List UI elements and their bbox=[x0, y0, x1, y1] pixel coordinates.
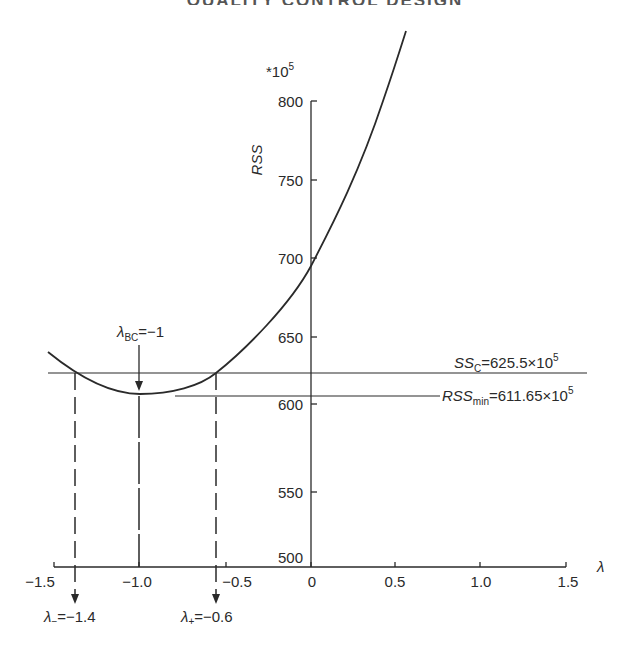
x-tick-label: 0 bbox=[308, 573, 316, 590]
x-axis bbox=[54, 562, 566, 567]
x-tick-labels: −1.5 −1.0 −0.5 0 0.5 1.0 1.5 bbox=[25, 573, 578, 590]
y-tick-label: 750 bbox=[278, 172, 303, 189]
x-tick-label: 1.5 bbox=[558, 573, 579, 590]
y-axis bbox=[311, 101, 317, 567]
x-tick-label: −1.0 bbox=[122, 573, 152, 590]
lambda-bc-annotation: λBC=−1 bbox=[116, 323, 164, 343]
y-tick-labels: 800 750 700 650 600 550 500 bbox=[278, 93, 303, 566]
y-tick-label: 500 bbox=[278, 549, 303, 566]
y-tick-label: 800 bbox=[278, 93, 303, 110]
arrow-down-icon bbox=[71, 594, 79, 604]
lambda-bc-arrow-icon bbox=[135, 345, 143, 391]
y-tick-label: 700 bbox=[278, 250, 303, 267]
y-multiplier: *105 bbox=[266, 61, 295, 80]
x-tick-label: 1.0 bbox=[471, 573, 492, 590]
lambda-plus-annotation: λ+=−0.6 bbox=[180, 608, 233, 627]
y-tick-label: 550 bbox=[278, 484, 303, 501]
rss-vs-lambda-chart: 800 750 700 650 600 550 500 *105 RSS −1.… bbox=[0, 0, 644, 658]
ssc-annotation: SSC=625.5×105 bbox=[454, 352, 559, 374]
rss-curve bbox=[48, 31, 406, 394]
x-tick-label: −0.5 bbox=[222, 573, 252, 590]
y-axis-label: RSS bbox=[248, 145, 265, 176]
lambda-minus-annotation: λ−=−1.4 bbox=[43, 608, 96, 627]
y-tick-label: 650 bbox=[278, 329, 303, 346]
x-axis-label: λ bbox=[596, 558, 604, 575]
x-tick-label: 0.5 bbox=[385, 573, 406, 590]
rss-min-annotation: RSSmin=611.65×105 bbox=[442, 385, 574, 407]
arrow-down-icon bbox=[212, 594, 220, 604]
x-tick-label: −1.5 bbox=[25, 573, 55, 590]
y-tick-label: 600 bbox=[278, 396, 303, 413]
